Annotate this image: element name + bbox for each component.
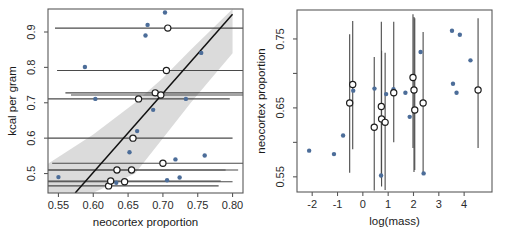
data-point-observed xyxy=(93,97,97,101)
y-tick-label: 0.65 xyxy=(274,97,286,118)
left-scatter-plot: 0.550.600.650.700.750.800.50.60.70.80.9n… xyxy=(0,0,256,247)
data-point-observed xyxy=(407,115,411,119)
data-point-imputed xyxy=(382,119,388,125)
data-point-observed xyxy=(454,91,458,95)
x-tick-label: 0.75 xyxy=(187,199,208,211)
data-point-imputed xyxy=(135,96,141,102)
data-point-observed xyxy=(458,33,462,37)
data-point-imputed xyxy=(378,103,384,109)
x-tick-label: 3 xyxy=(436,198,442,210)
y-tick-label: 0.5 xyxy=(25,166,37,181)
data-point-observed xyxy=(177,175,181,179)
data-point-observed xyxy=(135,129,139,133)
data-point-imputed xyxy=(371,124,377,130)
y-tick-label: 0.6 xyxy=(25,131,37,146)
plot-area xyxy=(1,9,256,193)
y-tick-label: 0.55 xyxy=(274,166,286,187)
data-point-imputed xyxy=(108,178,114,184)
regression-line xyxy=(75,14,232,193)
figure-container: 0.550.600.650.700.750.800.50.60.70.80.9n… xyxy=(0,0,511,247)
data-point-observed xyxy=(163,10,167,14)
x-tick-label: 0.80 xyxy=(222,199,243,211)
data-point-imputed xyxy=(163,67,169,73)
data-point-imputed xyxy=(160,160,166,166)
data-point-observed xyxy=(379,173,383,177)
data-point-imputed xyxy=(475,87,481,93)
data-point-observed xyxy=(114,181,118,185)
plot-frame xyxy=(297,10,492,192)
y-tick-label: 0.75 xyxy=(274,28,286,49)
panel-right-neocortex-vs-logmass: -2-1012340.550.650.75log(mass)neocortex … xyxy=(255,0,511,247)
data-point-observed xyxy=(173,157,177,161)
data-point-imputed xyxy=(122,179,128,185)
y-tick-label: 0.8 xyxy=(25,60,37,75)
data-point-imputed xyxy=(347,100,353,106)
data-point-observed xyxy=(418,50,422,54)
data-point-observed xyxy=(384,92,388,96)
x-tick-label: 0.70 xyxy=(152,199,173,211)
x-tick-label: 1 xyxy=(385,198,391,210)
panel-left-kcal-vs-neocortex: 0.550.600.650.700.750.800.50.60.70.80.9n… xyxy=(0,0,256,247)
plot-area xyxy=(307,14,481,190)
x-tick-label: 0.65 xyxy=(117,199,138,211)
data-point-observed xyxy=(56,175,60,179)
data-point-imputed xyxy=(128,167,134,173)
x-tick-label: 0 xyxy=(360,198,366,210)
y-axis-title: kcal per gram xyxy=(6,66,18,136)
data-point-observed xyxy=(184,97,188,101)
data-point-observed xyxy=(403,91,407,95)
data-point-imputed xyxy=(391,90,397,96)
right-scatter-plot: -2-1012340.550.650.75log(mass)neocortex … xyxy=(255,0,511,247)
data-point-observed xyxy=(332,152,336,156)
data-point-observed xyxy=(202,153,206,157)
data-point-observed xyxy=(372,86,376,90)
data-point-observed xyxy=(307,148,311,152)
x-tick-label: -2 xyxy=(307,198,317,210)
data-point-imputed xyxy=(165,25,171,31)
data-point-observed xyxy=(165,178,169,182)
data-point-observed xyxy=(451,82,455,86)
data-point-imputed xyxy=(412,107,418,113)
data-point-imputed xyxy=(420,100,426,106)
data-point-imputed xyxy=(158,92,164,98)
y-tick-label: 0.9 xyxy=(25,24,37,39)
data-point-imputed xyxy=(114,167,120,173)
data-point-observed xyxy=(468,58,472,62)
data-point-imputed xyxy=(411,87,417,93)
x-tick-label: -1 xyxy=(333,198,343,210)
x-tick-label: 0.55 xyxy=(48,199,69,211)
x-tick-label: 2 xyxy=(410,198,416,210)
data-point-observed xyxy=(341,133,345,137)
y-axis-title: neocortex proportion xyxy=(255,48,267,153)
y-tick-label: 0.7 xyxy=(25,95,37,110)
data-point-observed xyxy=(127,150,131,154)
data-point-observed xyxy=(421,171,425,175)
x-axis-title: neocortex proportion xyxy=(93,216,198,228)
data-point-imputed xyxy=(410,74,416,80)
data-point-imputed xyxy=(350,81,356,87)
data-point-observed xyxy=(143,33,147,37)
x-tick-label: 4 xyxy=(461,198,467,210)
data-point-observed xyxy=(83,65,87,69)
data-point-observed xyxy=(351,88,355,92)
data-point-observed xyxy=(145,23,149,27)
x-tick-label: 0.60 xyxy=(83,199,104,211)
data-point-imputed xyxy=(130,135,136,141)
data-point-observed xyxy=(199,51,203,55)
data-point-observed xyxy=(151,108,155,112)
x-axis-title: log(mass) xyxy=(369,215,420,227)
data-point-observed xyxy=(450,28,454,32)
